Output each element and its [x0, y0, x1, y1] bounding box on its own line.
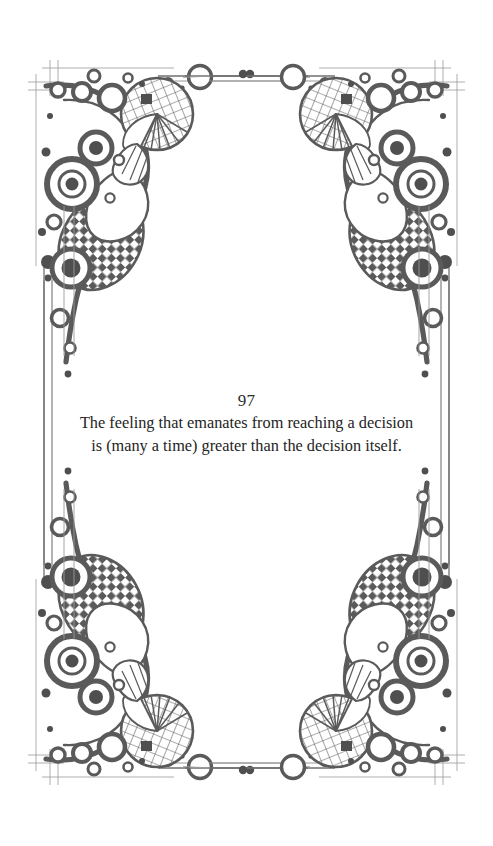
quote-line-2: is (many a time) greater than the decisi…: [58, 435, 435, 458]
rule-node-dot: [442, 563, 449, 570]
border-rule-top: [158, 66, 335, 91]
corner-ornament-top-left: [28, 60, 193, 377]
corner-ornament-bottom-right: [300, 468, 465, 785]
rule-node-dot: [41, 255, 55, 269]
quote-text: The feeling that emanates from reaching …: [0, 412, 493, 457]
rule-node-dot: [45, 275, 52, 282]
decorated-page: 97 The feeling that emanates from reachi…: [0, 0, 493, 846]
corner-ornament-top-right: [300, 60, 465, 377]
border-rule-bottom: [158, 753, 335, 778]
quote-number: 97: [0, 390, 493, 411]
corner-ornament-bottom-left: [28, 468, 193, 785]
quote-line-1: The feeling that emanates from reaching …: [58, 412, 435, 435]
rule-node-dot: [438, 255, 452, 269]
rule-node-dot: [438, 575, 452, 589]
quote-block: 97 The feeling that emanates from reachi…: [0, 390, 493, 457]
rule-node-dot: [45, 563, 52, 570]
rule-node-dot: [41, 575, 55, 589]
rule-node-dot: [442, 275, 449, 282]
